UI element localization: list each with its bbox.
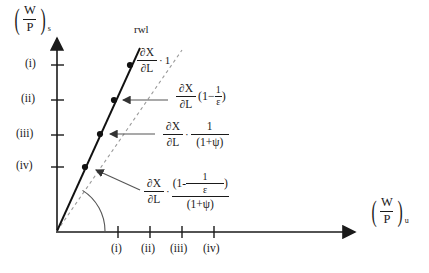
annotation-1-denominator: ∂L	[140, 62, 155, 75]
fraction-rule	[163, 134, 183, 135]
annotation-4-numerator: ∂X	[146, 177, 162, 190]
annotation-2-inner-denominator: ε	[216, 97, 220, 108]
data-point-3	[97, 131, 103, 137]
x-axis-label-denominator: P	[382, 213, 391, 227]
annotation-2-close: )	[222, 90, 226, 102]
fraction-rule	[137, 60, 157, 61]
fraction-rule	[172, 196, 229, 197]
rwl-line-solid	[57, 48, 140, 231]
annotation-4-right-open: (1-	[173, 177, 186, 190]
annotation-4-right-close: )	[224, 177, 228, 190]
partial-derivative-fraction: ∂X ∂L	[137, 46, 157, 75]
fraction-rule	[144, 191, 164, 192]
annotation-3-right-numerator: 1	[206, 120, 214, 133]
paren-close: )	[40, 6, 45, 32]
y-tick-label-4: (iv)	[16, 160, 33, 172]
annotation-4-right-numerator-group: (1- 1 ε )	[172, 172, 229, 195]
annotation-arrow-4	[96, 170, 140, 190]
figure-canvas: ( W P ) s ( W P ) u (i) (ii) (iii) (iv) …	[0, 0, 429, 273]
y-tick-label-3: (iii)	[16, 128, 33, 140]
annotation-3-right-denominator: (1+ψ)	[195, 136, 224, 149]
annotation-3-numerator: ∂X	[165, 120, 181, 133]
x-axis-label-subscript: u	[405, 217, 409, 225]
annotation-4-denominator: ∂L	[147, 193, 162, 206]
paren-close: )	[397, 198, 402, 224]
y-axis-label: ( W P ) s	[12, 4, 51, 34]
partial-derivative-fraction: ∂X ∂L	[176, 82, 196, 111]
annotation-1-tail: 1	[165, 55, 171, 66]
annotation-4-inner-fraction: 1 ε	[186, 172, 224, 195]
annotation-3: ∂X ∂L · 1 (1+ψ)	[163, 120, 229, 149]
annotation-3-denominator: ∂L	[166, 136, 181, 149]
annotation-2-inner-numerator: 1	[216, 85, 221, 96]
origin-angle-arc	[83, 190, 106, 231]
annotation-2: ∂X ∂L (1− 1 ε )	[176, 82, 226, 111]
annotation-2-open: (1−	[196, 90, 215, 102]
annotation-1-numerator: ∂X	[139, 46, 155, 59]
fraction-rule	[191, 134, 229, 135]
y-tick-label-1: (i)	[25, 58, 36, 70]
x-tick-label-1: (i)	[111, 243, 122, 255]
partial-derivative-fraction: ∂X ∂L	[163, 120, 183, 149]
y-axis-label-numerator: W	[23, 4, 37, 18]
annotation-2-numerator: ∂X	[178, 82, 194, 95]
y-tick-label-2: (ii)	[21, 93, 35, 105]
annotation-1: ∂X ∂L · 1	[137, 46, 170, 75]
annotation-4-inner-numerator: 1	[203, 172, 208, 183]
y-axis-label-subscript: s	[48, 25, 51, 33]
x-axis-label-numerator: W	[380, 196, 394, 210]
data-point-2	[111, 97, 117, 103]
annotation-4-inner-denominator: ε	[203, 185, 207, 196]
paren-open: (	[14, 6, 19, 32]
annotation-3-right-fraction: 1 (1+ψ)	[191, 120, 229, 149]
annotation-1-operator: ·	[157, 55, 165, 66]
annotation-4-operator: ·	[164, 186, 172, 197]
data-point-4	[82, 164, 88, 170]
x-tick-label-2: (ii)	[141, 243, 155, 255]
annotation-4-right-denominator: (1+ψ)	[186, 198, 215, 211]
data-point-1	[127, 62, 133, 68]
annotation-4: ∂X ∂L · (1- 1 ε ) (1+ψ)	[144, 172, 229, 211]
annotation-4-right-fraction: (1- 1 ε ) (1+ψ)	[172, 172, 229, 211]
annotation-2-denominator: ∂L	[179, 98, 194, 111]
x-axis-label: ( W P ) u	[369, 196, 409, 226]
x-tick-label-3: (iii)	[170, 243, 187, 255]
y-axis-label-denominator: P	[25, 21, 34, 35]
fraction-rule	[176, 96, 196, 97]
partial-derivative-fraction: ∂X ∂L	[144, 177, 164, 206]
annotation-3-operator: ·	[183, 129, 191, 140]
annotation-2-inner-fraction: 1 ε	[215, 85, 222, 108]
paren-open: (	[371, 198, 376, 224]
rwl-line-label: rwl	[134, 24, 149, 35]
x-tick-label-4: (iv)	[203, 243, 220, 255]
